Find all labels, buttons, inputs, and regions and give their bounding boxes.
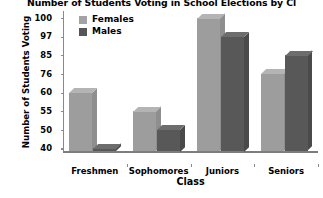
bar-group-sophomores: [127, 10, 191, 151]
bar-top-face: [133, 107, 161, 112]
y-tick-label-50: 50: [16, 126, 52, 134]
bar-side-face: [307, 51, 312, 152]
bar-side-face: [244, 32, 249, 151]
bar-side-face: [92, 88, 97, 152]
bar-group-seniors: [254, 10, 318, 151]
bar-front-face: [221, 37, 244, 152]
chart-title: Number of Students Voting in School Elec…: [0, 0, 323, 8]
bar-front-face: [197, 18, 220, 151]
bar-top-face: [285, 51, 313, 56]
bar-front-face: [285, 55, 308, 151]
bar-front-face: [133, 111, 156, 151]
legend-swatch-icon: [79, 16, 87, 24]
x-tick-label-sophomores: Sophomores: [127, 166, 191, 176]
bar-front-face: [69, 93, 92, 152]
bar-seniors-females: [261, 74, 284, 152]
bar-juniors-males: [221, 37, 244, 152]
y-tick-label-55: 55: [16, 107, 52, 115]
x-tick-mark: [318, 164, 319, 167]
y-tick-label-97: 97: [16, 32, 52, 40]
bar-group-juniors: [191, 10, 255, 151]
bar-sophomores-females: [133, 111, 156, 151]
bar-seniors-males: [285, 55, 308, 151]
x-tick-label-juniors: Juniors: [191, 166, 255, 176]
legend-label: Females: [92, 15, 134, 24]
bar-front-face: [157, 130, 180, 152]
bar-front-face: [261, 74, 284, 152]
y-tick-label-85: 85: [16, 51, 52, 59]
y-tick-label-76: 76: [16, 70, 52, 78]
legend-label: Males: [92, 27, 122, 36]
bar-top-face: [197, 14, 225, 19]
y-tick-label-40: 40: [16, 144, 52, 152]
bar-freshmen-males: [93, 148, 116, 151]
x-tick-label-seniors: Seniors: [254, 166, 318, 176]
y-tick-label-60: 60: [16, 88, 52, 96]
legend-item-females[interactable]: Females: [79, 14, 134, 25]
y-tick-label-100: 100: [16, 14, 52, 22]
bar-juniors-females: [197, 18, 220, 151]
bar-freshmen-females: [69, 93, 92, 152]
bar-sophomores-males: [157, 130, 180, 152]
x-axis-line: [63, 151, 318, 153]
x-axis-title: Class: [63, 176, 318, 187]
legend-item-males[interactable]: Males: [79, 26, 134, 37]
legend-swatch-icon: [79, 28, 87, 36]
chart-legend: FemalesMales: [79, 14, 134, 38]
x-tick-label-freshmen: Freshmen: [63, 166, 127, 176]
